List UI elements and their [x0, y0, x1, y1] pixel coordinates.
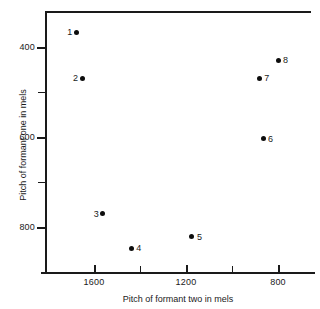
data-point — [276, 58, 281, 63]
data-point — [74, 30, 79, 35]
data-point-label: 8 — [283, 56, 288, 65]
x-axis-tick-label: 800 — [256, 278, 300, 287]
data-point — [189, 234, 194, 239]
data-point-label: 5 — [197, 232, 202, 241]
x-axis-tick-label: 1600 — [72, 278, 116, 287]
data-point — [80, 76, 85, 81]
data-point-label: 6 — [268, 134, 273, 143]
x-axis-tick-label: 1200 — [164, 278, 208, 287]
plot-data-area: 12345678 — [45, 11, 311, 273]
data-point — [257, 76, 262, 81]
x-axis-title: Pitch of formant two in mels — [45, 294, 311, 304]
data-point-label: 7 — [264, 74, 269, 83]
data-point-label: 1 — [67, 28, 72, 37]
data-point-label: 3 — [94, 209, 99, 218]
data-point — [100, 211, 105, 216]
data-point-label: 2 — [73, 74, 78, 83]
data-point — [129, 246, 134, 251]
scatter-plot-figure: 40060080016001200800 12345678 Pitch of f… — [0, 0, 320, 309]
y-axis-tick-label: 400 — [0, 43, 35, 52]
y-axis-title: Pitch of formant one in mels — [18, 60, 28, 230]
data-point — [261, 136, 266, 141]
data-point-label: 4 — [136, 244, 141, 253]
